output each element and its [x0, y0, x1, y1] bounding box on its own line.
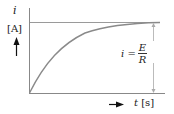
- y-axis-unit: [A]: [7, 24, 22, 34]
- asymptote-equation: i = E R: [121, 42, 147, 65]
- x-axis-label: t [s]: [134, 98, 154, 108]
- equation-denominator: R: [139, 54, 147, 65]
- dimension-arrow-up-icon: [152, 23, 156, 27]
- equation-numerator: E: [138, 42, 147, 54]
- arrow-up-icon: [14, 37, 20, 45]
- x-axis-variable: t: [134, 97, 138, 108]
- dimension-arrow-down-icon: [152, 89, 156, 93]
- arrow-right-icon: [116, 102, 124, 108]
- x-axis-unit: [s]: [141, 97, 154, 108]
- y-axis-variable: i: [13, 5, 17, 16]
- equation-lhs: i =: [121, 49, 136, 59]
- equation-fraction: E R: [138, 42, 147, 65]
